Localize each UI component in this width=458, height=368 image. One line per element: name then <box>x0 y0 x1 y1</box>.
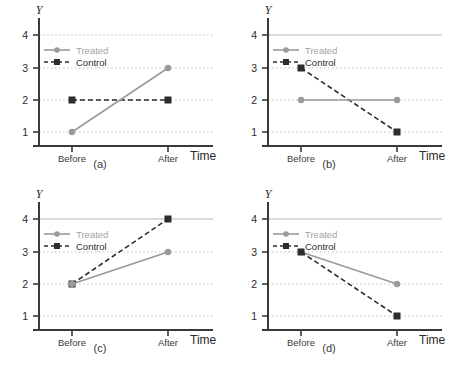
legend-label-treated: Treated <box>76 45 108 56</box>
legend-a: Treated Control <box>44 45 108 68</box>
y-axis-label: Y <box>265 187 273 201</box>
legend-label-control: Control <box>76 57 107 68</box>
panel-d: 4 3 2 1 Before After Y Time Treated <box>229 184 458 368</box>
y-tick-4: 4 <box>22 213 28 225</box>
legend-label-control: Control <box>305 241 336 252</box>
y-tick-3: 3 <box>22 62 28 74</box>
panel-c-plot: 4 3 2 1 Before After Y Time Treated <box>0 184 229 368</box>
panel-c: 4 3 2 1 Before After Y Time Treated <box>0 184 229 368</box>
panel-b-plot: 4 3 2 1 Before After Y Time Treated <box>229 0 458 184</box>
y-tick-1: 1 <box>22 126 28 138</box>
y-tick-4: 4 <box>251 29 257 41</box>
legend-label-control: Control <box>76 241 107 252</box>
y-tick-2: 2 <box>251 94 257 106</box>
panel-caption-a: (a) <box>0 158 200 170</box>
series-treated-b <box>298 97 400 103</box>
panel-caption-c: (c) <box>0 342 200 354</box>
y-axis-label: Y <box>36 3 44 17</box>
legend-label-treated: Treated <box>305 229 337 240</box>
panel-d-plot: 4 3 2 1 Before After Y Time Treated <box>229 184 458 368</box>
y-tick-1: 1 <box>251 126 257 138</box>
y-tick-3: 3 <box>251 246 257 258</box>
legend-label-control: Control <box>305 57 336 68</box>
four-panel-line-chart-figure: 4 3 2 1 Before After Y Time Treated <box>0 0 458 368</box>
y-tick-2: 2 <box>251 278 257 290</box>
series-treated-c <box>69 249 171 287</box>
panel-b: 4 3 2 1 Before After Y Time Treated <box>229 0 458 184</box>
legend-label-treated: Treated <box>76 229 108 240</box>
panel-a-plot: 4 3 2 1 Before After Y Time Treated <box>0 0 229 184</box>
panel-a: 4 3 2 1 Before After Y Time Treated <box>0 0 229 184</box>
y-tick-2: 2 <box>22 278 28 290</box>
y-tick-2: 2 <box>22 94 28 106</box>
legend-c: Treated Control <box>44 229 108 252</box>
series-treated-d <box>298 249 400 287</box>
y-tick-4: 4 <box>22 29 28 41</box>
y-axis-label: Y <box>265 3 273 17</box>
panel-caption-d: (d) <box>229 342 429 354</box>
y-axis-label: Y <box>36 187 44 201</box>
panel-caption-b: (b) <box>229 158 429 170</box>
y-tick-1: 1 <box>22 310 28 322</box>
legend-d: Treated Control <box>273 229 337 252</box>
legend-label-treated: Treated <box>305 45 337 56</box>
legend-b: Treated Control <box>273 45 337 68</box>
y-tick-4: 4 <box>251 213 257 225</box>
y-tick-3: 3 <box>251 62 257 74</box>
y-tick-3: 3 <box>22 246 28 258</box>
y-tick-1: 1 <box>251 310 257 322</box>
